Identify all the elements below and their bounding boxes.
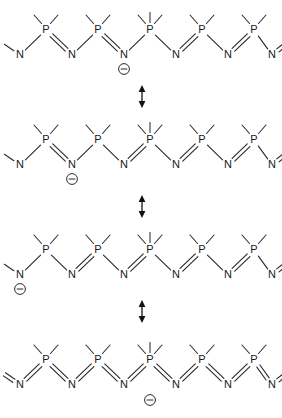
negative-charge-symbol	[119, 64, 130, 75]
atom-label-nitrogen: N	[172, 378, 180, 390]
atom-label-nitrogen: N	[172, 158, 180, 170]
atom-label-phosphorus: P	[250, 23, 257, 35]
atom-label-nitrogen: N	[68, 158, 76, 170]
atom-label-phosphorus: P	[94, 23, 101, 35]
phosphorus-substituents	[86, 235, 110, 244]
phosphorus-substituents	[242, 235, 266, 244]
atom-label-phosphorus: P	[250, 133, 257, 145]
terminal-bond-right	[277, 263, 282, 272]
atom-label-nitrogen: N	[172, 268, 180, 280]
atom-label-nitrogen: N	[268, 378, 276, 390]
resonance-structure-4: NPNPNPNPNPN	[3, 343, 282, 406]
atom-label-nitrogen: N	[16, 158, 24, 170]
terminal-bond-left	[4, 154, 13, 160]
phosphorus-substituents	[138, 233, 162, 244]
phosphorus-substituents	[190, 235, 214, 244]
atom-label-phosphorus: P	[198, 23, 205, 35]
atom-label-nitrogen: N	[120, 378, 128, 390]
atom-label-nitrogen: N	[268, 268, 276, 280]
terminal-bond-right	[277, 43, 282, 52]
atom-label-phosphorus: P	[42, 23, 49, 35]
atom-label-nitrogen: N	[120, 268, 128, 280]
phosphorus-substituents	[34, 235, 58, 244]
atom-label-phosphorus: P	[94, 133, 101, 145]
atom-label-nitrogen: N	[224, 48, 232, 60]
atom-label-phosphorus: P	[146, 133, 153, 145]
phosphorus-substituents	[86, 125, 110, 134]
diagram-canvas: NPNPNPNPNPNNPNPNPNPNPNNPNPNPNPNPNNPNPNPN…	[0, 0, 282, 418]
resonance-diagram: NPNPNPNPNPNNPNPNPNPNPNNPNPNPNPNPNNPNPNPN…	[0, 0, 282, 418]
atom-label-nitrogen: N	[224, 378, 232, 390]
atom-label-nitrogen: N	[16, 268, 24, 280]
atom-label-nitrogen: N	[172, 48, 180, 60]
atom-label-nitrogen: N	[16, 378, 24, 390]
atom-label-phosphorus: P	[146, 243, 153, 255]
resonance-structure-2: NPNPNPNPNPN	[4, 123, 282, 185]
negative-charge-symbol	[15, 284, 26, 295]
phosphorus-substituents	[242, 345, 266, 354]
phosphorus-substituents	[138, 13, 162, 24]
resonance-arrow-1	[139, 85, 146, 108]
atom-label-nitrogen: N	[120, 158, 128, 170]
terminal-bond-right	[277, 153, 282, 162]
phosphorus-substituents	[190, 345, 214, 354]
atom-label-nitrogen: N	[16, 48, 24, 60]
atom-label-phosphorus: P	[198, 243, 205, 255]
phosphorus-substituents	[190, 125, 214, 134]
atom-label-nitrogen: N	[120, 48, 128, 60]
atom-label-phosphorus: P	[146, 353, 153, 365]
terminal-bond-left	[4, 264, 13, 270]
atom-label-phosphorus: P	[42, 243, 49, 255]
phosphorus-substituents	[86, 345, 110, 354]
atom-label-phosphorus: P	[198, 353, 205, 365]
terminal-bond-right	[277, 373, 282, 382]
phosphorus-substituents	[190, 15, 214, 24]
resonance-structure-1: NPNPNPNPNPN	[4, 13, 282, 75]
phosphorus-substituents	[86, 15, 110, 24]
atom-label-nitrogen: N	[68, 378, 76, 390]
phosphorus-substituents	[242, 15, 266, 24]
atom-label-phosphorus: P	[42, 133, 49, 145]
atom-label-phosphorus: P	[146, 23, 153, 35]
atom-label-nitrogen: N	[68, 268, 76, 280]
phosphorus-substituents	[138, 123, 162, 134]
atom-label-nitrogen: N	[68, 48, 76, 60]
phosphorus-substituents	[34, 15, 58, 24]
atom-label-nitrogen: N	[268, 48, 276, 60]
atom-label-nitrogen: N	[268, 158, 276, 170]
phosphorus-substituents	[242, 125, 266, 134]
negative-charge-symbol	[67, 174, 78, 185]
resonance-arrow-2	[139, 195, 146, 218]
negative-charge-symbol	[145, 395, 156, 406]
atom-label-phosphorus: P	[94, 353, 101, 365]
atom-label-nitrogen: N	[224, 158, 232, 170]
atom-label-phosphorus: P	[250, 243, 257, 255]
phosphorus-substituents	[138, 343, 162, 354]
phosphorus-substituents	[34, 345, 58, 354]
phosphorus-substituents	[34, 125, 58, 134]
atom-label-phosphorus: P	[250, 353, 257, 365]
atom-label-phosphorus: P	[94, 243, 101, 255]
atom-label-phosphorus: P	[42, 353, 49, 365]
atom-label-phosphorus: P	[198, 133, 205, 145]
terminal-bond-left	[4, 44, 13, 50]
atom-label-nitrogen: N	[224, 268, 232, 280]
terminal-bond-left	[3, 373, 15, 383]
resonance-structure-3: NPNPNPNPNPN	[4, 233, 282, 295]
resonance-arrow-3	[139, 300, 146, 323]
